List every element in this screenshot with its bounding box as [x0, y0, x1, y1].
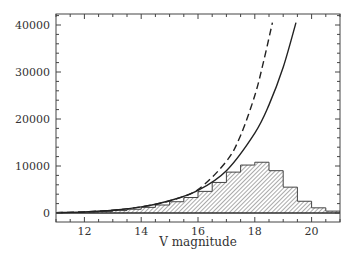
- histogram-bars: [56, 162, 340, 213]
- x-tick-label: 20: [305, 225, 319, 238]
- x-axis-label: V magnitude: [158, 235, 237, 249]
- y-tick-label: 10000: [15, 160, 50, 173]
- y-tick-label: 20000: [15, 113, 50, 126]
- x-tick-label: 14: [134, 225, 148, 238]
- x-tick-label: 12: [77, 225, 91, 238]
- chart: 010000200003000040000 1214161820 V magni…: [0, 0, 357, 257]
- y-tick-labels: 010000200003000040000: [15, 19, 50, 220]
- y-tick-label: 40000: [15, 19, 50, 32]
- y-tick-label: 0: [43, 207, 50, 220]
- x-tick-label: 18: [248, 225, 262, 238]
- y-tick-label: 30000: [15, 66, 50, 79]
- histogram-area: [56, 162, 340, 213]
